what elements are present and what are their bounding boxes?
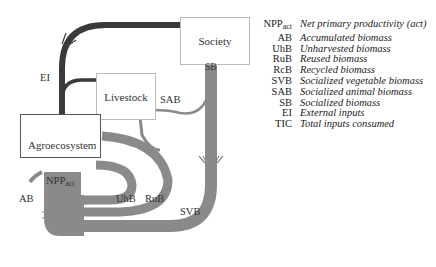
svb-label: SVB	[180, 206, 200, 217]
npp-label: NPPact	[46, 175, 75, 188]
legend-item: SABSocialized animal biomass	[256, 87, 426, 98]
ei-label: EI	[40, 72, 50, 83]
external-inputs-livestock-flow	[62, 80, 96, 100]
society-label: Society	[199, 35, 232, 47]
livestock-node: Livestock	[96, 73, 156, 120]
legend-item: TICTotal inputs consumed	[256, 119, 426, 130]
sb-label: SB	[205, 62, 217, 72]
agroecosystem-node: Agroecosystem	[20, 114, 101, 158]
uhb-label: UhB	[116, 193, 136, 204]
rub-label: RuB	[145, 193, 164, 204]
society-node: Society	[180, 17, 250, 65]
livestock-label: Livestock	[104, 91, 147, 103]
flow-diagram: Society Livestock Agroecosystem EI SAB S…	[0, 0, 260, 267]
legend-item: ABAccumulated biomass	[256, 33, 426, 44]
legend-item: NPPactNet primary productivity (act)	[256, 19, 426, 33]
legend: NPPactNet primary productivity (act) ABA…	[256, 19, 426, 130]
ab-label: AB	[19, 193, 34, 204]
sab-label: SAB	[160, 94, 180, 105]
agroecosystem-label: Agroecosystem	[28, 139, 96, 151]
accumulated-biomass-flow	[30, 172, 42, 182]
